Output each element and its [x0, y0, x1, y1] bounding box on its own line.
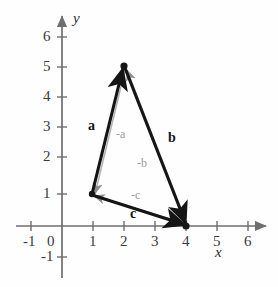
vector-label-c: c	[130, 207, 136, 221]
y-axis-label: y	[73, 11, 80, 26]
y-tick-label-3: 3	[43, 119, 51, 134]
y-tick-label-4: 4	[43, 89, 51, 104]
vector-label-a: a	[88, 119, 95, 133]
x-tick-label-0: 0	[47, 234, 55, 249]
vector-label-minus-b: -b	[137, 157, 147, 169]
point-P	[89, 191, 95, 197]
x-tick-label-3: 3	[151, 234, 159, 249]
vector-label-minus-c: -c	[131, 189, 140, 201]
y-tick-label--1: -1	[41, 249, 54, 264]
y-tick-label-5: 5	[43, 59, 51, 74]
diagram-canvas	[0, 0, 278, 287]
x-tick-label-1: 1	[89, 234, 97, 249]
x-axis-label: x	[215, 245, 222, 260]
vector-label-minus-a: -a	[116, 128, 125, 140]
x-tick-label--1: -1	[23, 234, 36, 249]
point-Q	[120, 62, 127, 69]
y-tick-label-1: 1	[43, 186, 51, 201]
vector-diagram-figure: -1 0 1 2 3 4 5 6 6 5 4 3 2 1 0 -1 y x a …	[0, 0, 278, 287]
point-R	[182, 222, 189, 229]
x-tick-label-2: 2	[120, 234, 128, 249]
y-tick-label-2: 2	[43, 149, 51, 164]
x-tick-label-6: 6	[244, 234, 252, 249]
vector-label-b: b	[168, 131, 176, 145]
y-tick-label-6: 6	[43, 29, 51, 44]
x-tick-label-4: 4	[182, 234, 190, 249]
